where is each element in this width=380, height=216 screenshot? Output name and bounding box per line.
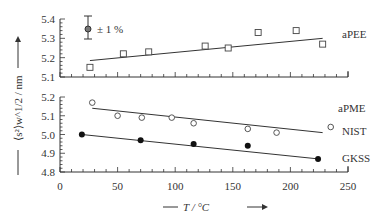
fit-line [92, 108, 322, 132]
data-point [293, 28, 299, 34]
data-point [245, 143, 251, 149]
data-point [120, 51, 126, 57]
data-point [191, 141, 197, 147]
data-point [255, 30, 261, 36]
y-tick-label: 4.8 [41, 166, 55, 178]
y-tick-label: 5.1 [41, 71, 55, 83]
x-tick-label: 150 [225, 180, 242, 192]
y-tick-label: 5.0 [41, 129, 55, 141]
arrow-up-icon [15, 36, 21, 42]
data-point [328, 124, 334, 130]
y-tick-label: 5.2 [41, 52, 55, 64]
data-point [225, 45, 231, 51]
data-point [245, 126, 251, 132]
x-tick-label: 100 [167, 180, 184, 192]
data-point [89, 100, 95, 106]
data-point [87, 64, 93, 70]
data-point [320, 41, 326, 47]
label-apee: aPEE [342, 28, 367, 40]
y-tick-label: 4.9 [41, 147, 55, 159]
arrow-right-icon [262, 204, 268, 210]
data-point [146, 49, 152, 55]
y-tick-label: 5.3 [41, 32, 55, 44]
data-point [169, 115, 175, 121]
label-nist: NIST [342, 125, 367, 137]
error-annotation: ± 1 % [97, 23, 123, 35]
data-point [138, 137, 144, 143]
data-point [115, 113, 121, 119]
x-axis-label: T / °C [183, 201, 210, 213]
chart-figure: 5.45.35.25.15.25.15.04.94.80501001502002… [0, 0, 380, 216]
x-tick-label: 50 [112, 180, 124, 192]
data-point [274, 130, 280, 136]
fit-line [82, 135, 318, 159]
data-point [191, 120, 197, 126]
x-tick-label: 0 [57, 180, 63, 192]
y-tick-label: 5.4 [41, 13, 55, 25]
x-tick-label: 200 [282, 180, 299, 192]
y-tick-label: 5.2 [41, 91, 55, 103]
data-point [139, 115, 145, 121]
y-tick-label: 5.1 [41, 110, 55, 122]
label-apme: aPME [338, 102, 366, 114]
label-gkss: GKSS [342, 152, 370, 164]
data-point [79, 132, 85, 138]
y-axis-label: ⟨s²⟩w^1/2 / nm [12, 75, 24, 141]
x-tick-label: 250 [340, 180, 357, 192]
data-point [202, 43, 208, 49]
data-point [315, 156, 321, 162]
